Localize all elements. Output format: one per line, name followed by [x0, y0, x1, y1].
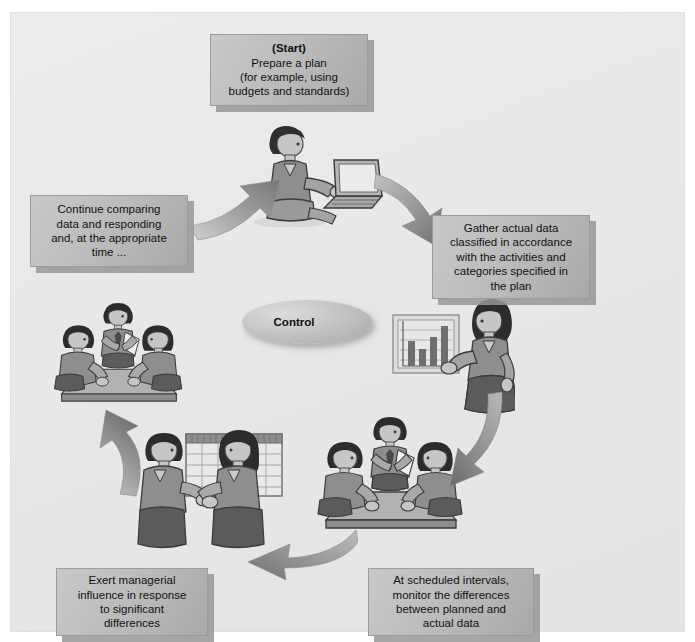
step-monitor-line-2: monitor the differences — [393, 588, 510, 602]
step-start-line-1: (Start) — [229, 41, 350, 55]
step-gather-line-5: the plan — [450, 279, 572, 293]
step-box-gather: Gather actual data classified in accorda… — [432, 215, 590, 299]
step-monitor-line-3: between planned and — [393, 602, 510, 616]
step-box-exert: Exert managerial influence in response t… — [56, 568, 208, 636]
step-monitor-line-4: actual data — [393, 616, 510, 630]
step-gather-line-3: with the activities and — [450, 250, 572, 264]
step-exert-line-1: Exert managerial — [78, 573, 187, 587]
diagram-canvas: Control (Start) Prepare a plan (for exam… — [0, 0, 695, 642]
control-label: Control — [274, 316, 315, 328]
step-continue-line-4: time ... — [51, 245, 167, 259]
step-exert-line-3: to significant — [78, 602, 187, 616]
step-start-line-2: Prepare a plan — [229, 56, 350, 70]
step-gather-line-2: classified in accordance — [450, 235, 572, 249]
step-continue-line-2: data and responding — [51, 217, 167, 231]
step-continue-line-1: Continue comparing — [51, 202, 167, 216]
step-box-monitor: At scheduled intervals, monitor the diff… — [368, 568, 534, 636]
step-monitor-line-1: At scheduled intervals, — [393, 573, 510, 587]
step-box-continue: Continue comparing data and responding a… — [30, 195, 188, 267]
control-center-ellipse: Control — [242, 300, 372, 344]
arrow-exert-to-continue — [92, 410, 156, 498]
arrow-gather-to-monitor — [450, 392, 540, 502]
step-exert-line-4: differences — [78, 616, 187, 630]
arrow-monitor-to-exert — [246, 526, 358, 582]
diagram-panel: Control (Start) Prepare a plan (for exam… — [10, 12, 685, 632]
step-start-line-4: budgets and standards) — [229, 84, 350, 98]
step-continue-line-3: and, at the appropriate — [51, 231, 167, 245]
step-box-start: (Start) Prepare a plan (for example, usi… — [210, 34, 368, 106]
step-gather-line-4: categories specified in — [450, 264, 572, 278]
step-start-line-3: (for example, using — [229, 70, 350, 84]
step-exert-line-2: influence in response — [78, 588, 187, 602]
arrow-continue-to-start — [188, 164, 298, 244]
step-gather-line-1: Gather actual data — [450, 221, 572, 235]
